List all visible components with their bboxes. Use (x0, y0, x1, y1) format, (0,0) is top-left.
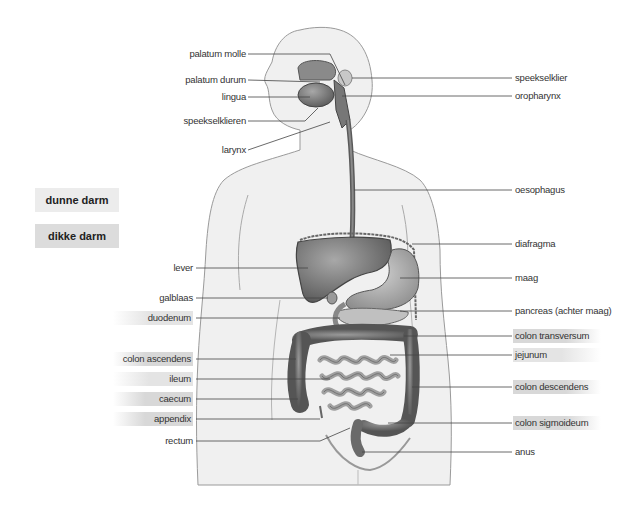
label-diafragma: diafragma (515, 237, 555, 251)
label-oropharynx: oropharynx (515, 89, 561, 103)
label-oesophagus: oesophagus (515, 183, 565, 197)
label-maag: maag (515, 271, 538, 285)
label-colon-sigmoideum: colon sigmoideum (513, 416, 601, 430)
label-pancreas: pancreas (achter maag) (515, 304, 611, 318)
label-colon-ascendens: colon ascendens (113, 352, 193, 366)
label-appendix: appendix (113, 412, 193, 426)
palate (298, 61, 336, 80)
label-larynx: larynx (222, 143, 246, 157)
label-colon-descendens: colon descendens (513, 380, 601, 394)
colon-transverse (300, 332, 410, 340)
label-galblaas: galblaas (159, 291, 193, 305)
legend-large-intestine: dikke darm (35, 224, 119, 248)
colon-ascending (296, 340, 302, 404)
label-lever: lever (173, 261, 193, 275)
salivary-gland (338, 70, 352, 86)
label-speekselklieren: speekselklieren (184, 114, 246, 128)
label-colon-transversum: colon transversum (513, 329, 601, 343)
label-speekselklier: speekselklier (515, 71, 567, 85)
rectum (356, 424, 360, 452)
label-anus: anus (515, 445, 535, 459)
label-caecum: caecum (113, 392, 193, 406)
tongue (298, 83, 334, 107)
label-lingua: lingua (222, 90, 246, 104)
label-palatum-durum: palatum durum (185, 73, 246, 87)
label-jejunum: jejunum (513, 348, 601, 362)
label-duodenum: duodenum (113, 311, 193, 325)
legend-small-intestine: dunne darm (35, 188, 119, 212)
label-rectum: rectum (165, 434, 193, 448)
label-palatum-molle: palatum molle (189, 47, 246, 61)
label-ileum: ileum (113, 372, 193, 386)
colon-descending (408, 336, 413, 420)
gallbladder (327, 292, 337, 304)
